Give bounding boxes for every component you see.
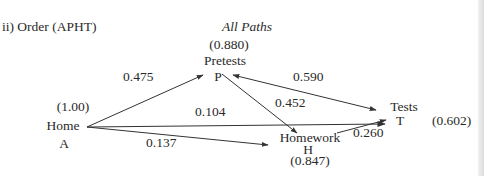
coef-home-pretests: 0.475 [123,70,153,84]
path-diagram: ii) Order (APHT) All Paths (0.880) Prete… [0,0,484,176]
coef-home-tests: 0.104 [195,105,225,119]
subtitle: All Paths [222,20,272,34]
tests-letter: T [396,114,404,128]
pretests-value: (0.880) [209,38,248,52]
tests-label: Tests [390,100,418,114]
coef-pretests-tests: 0.590 [293,70,323,84]
arrow-home-to-tests [87,124,385,127]
home-letter: A [59,137,69,151]
pretests-letter: P [214,70,222,84]
coef-home-homework: 0.137 [146,136,176,150]
home-value: (1.00) [57,100,90,114]
tests-value: (0.602) [432,114,471,128]
pretests-label: Pretests [204,54,246,68]
homework-value: (0.847) [290,154,329,168]
panel-label: ii) Order (APHT) [2,20,96,34]
home-label: Home [47,119,80,133]
coef-homework-tests: 0.260 [353,126,383,140]
arrow-home-to-homework [87,127,268,145]
page-edge [478,0,484,176]
coef-pretests-homework: 0.452 [275,96,305,110]
